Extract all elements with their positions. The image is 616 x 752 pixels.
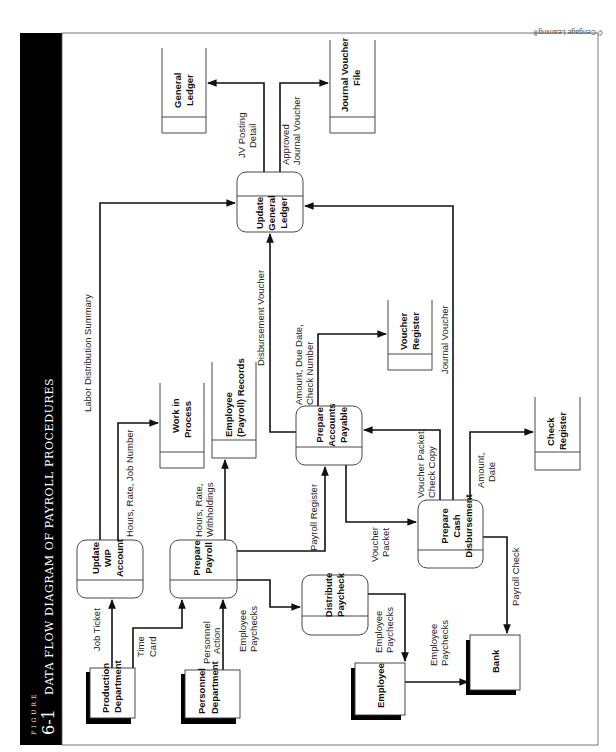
label-journal-voucher: Journal Voucher — [439, 305, 450, 374]
label-payroll-register: Payroll Register — [308, 484, 319, 551]
flow-voucher-packet — [346, 465, 416, 522]
svg-text:Check: Check — [545, 417, 556, 446]
svg-text:Check Copy: Check Copy — [426, 446, 437, 498]
label-employee-paychecks-3: Employee Paychecks — [428, 620, 450, 666]
svg-text:Disbursement: Disbursement — [463, 493, 474, 557]
svg-text:Paycheck: Paycheck — [335, 572, 346, 617]
svg-text:Time: Time — [135, 636, 146, 657]
svg-text:Check Number: Check Number — [304, 342, 315, 405]
svg-text:Labor Distribution Summary: Labor Distribution Summary — [82, 294, 93, 412]
label-jv-posting: JV Posting Detail — [236, 113, 258, 158]
copyright-credit: © Cengage Learning® — [532, 28, 603, 36]
svg-text:General: General — [266, 195, 277, 230]
svg-text:Department: Department — [112, 659, 123, 713]
svg-text:Payable: Payable — [338, 407, 349, 443]
svg-text:Detail: Detail — [247, 124, 258, 148]
svg-text:Hours, Rate, Job Number: Hours, Rate, Job Number — [124, 429, 135, 537]
svg-text:Register: Register — [557, 412, 568, 450]
payroll-data-flow-diagram: © Cengage Learning® FIGURE 6-1 DATA FLOW… — [0, 0, 616, 752]
store-employee-payroll-records[interactable]: Employee (Payroll) Records — [212, 358, 256, 458]
svg-text:Paychecks: Paychecks — [384, 607, 395, 653]
svg-text:Disbursement Voucher: Disbursement Voucher — [255, 270, 266, 366]
store-general-ledger[interactable]: General Ledger — [162, 48, 206, 133]
figure-title: DATA FLOW DIAGRAM OF PAYROLL PROCEDURES — [43, 378, 56, 695]
svg-text:File: File — [351, 70, 362, 86]
svg-text:Prepare: Prepare — [439, 508, 450, 543]
process-update-wip-account[interactable]: Update WIP Account — [77, 538, 143, 598]
process-update-general-ledger[interactable]: Update General Ledger — [237, 172, 303, 232]
label-approved-jv: Approved Journal Voucher — [280, 96, 302, 165]
svg-text:Payroll Register: Payroll Register — [308, 484, 319, 551]
label-job-ticket: Job Ticket — [91, 608, 102, 651]
store-check-register[interactable]: Check Register — [535, 397, 580, 470]
svg-text:Production: Production — [100, 663, 111, 713]
svg-text:Cash: Cash — [451, 514, 462, 537]
svg-text:Account: Account — [114, 538, 125, 577]
svg-text:Job Ticket: Job Ticket — [91, 608, 102, 651]
svg-text:Card: Card — [147, 636, 158, 657]
label-hours-rate-job: Hours, Rate, Job Number — [124, 429, 135, 537]
label-amount-date: Amount, Date — [475, 453, 497, 488]
svg-text:Withholdings: Withholdings — [204, 482, 215, 537]
label-labor-distribution: Labor Distribution Summary — [82, 294, 93, 412]
flow-amount-due-check — [318, 334, 386, 406]
svg-text:Date: Date — [486, 462, 497, 482]
entity-production-department[interactable]: Production Department — [86, 659, 135, 724]
svg-text:WIP: WIP — [102, 548, 113, 567]
entity-employee[interactable]: Employee — [351, 663, 405, 720]
svg-text:Amount,: Amount, — [475, 453, 486, 488]
process-prepare-cash-disbursement[interactable]: Prepare Cash Disbursement — [418, 493, 483, 568]
svg-text:Approved: Approved — [280, 124, 291, 165]
svg-text:Department: Department — [209, 660, 220, 714]
process-prepare-payroll[interactable]: Prepare Payroll — [170, 540, 237, 598]
label-voucher-packet: Voucher Packet — [369, 527, 391, 562]
store-journal-voucher-file[interactable]: Journal Voucher File — [330, 37, 375, 133]
svg-text:Personnel: Personnel — [196, 668, 207, 714]
svg-text:Prepare: Prepare — [314, 407, 325, 442]
label-employee-paychecks-2: Employee Paychecks — [373, 607, 395, 653]
label-personnel-action: Personnel Action — [201, 621, 222, 664]
svg-text:Work in: Work in — [170, 398, 181, 433]
label-disbursement-voucher: Disbursement Voucher — [255, 270, 266, 366]
process-prepare-accounts-payable[interactable]: Prepare Accounts Payable — [296, 403, 362, 465]
svg-text:Accounts: Accounts — [326, 403, 337, 446]
svg-text:Journal Voucher: Journal Voucher — [291, 96, 302, 165]
svg-text:Payroll Check: Payroll Check — [510, 547, 521, 606]
svg-text:Distribute: Distribute — [323, 573, 334, 617]
svg-text:Employee: Employee — [237, 610, 248, 652]
svg-text:Action: Action — [211, 628, 222, 654]
svg-text:Paychecks: Paychecks — [439, 620, 450, 666]
figure-number: 6-1 — [39, 709, 58, 735]
svg-text:(Payroll) Records: (Payroll) Records — [235, 358, 246, 437]
flow-payroll-check — [483, 537, 507, 633]
svg-text:Process: Process — [182, 401, 193, 438]
svg-text:General: General — [172, 73, 183, 108]
process-distribute-paycheck[interactable]: Distribute Paycheck — [302, 572, 368, 635]
label-employee-paychecks-1: Employee Paychecks — [237, 606, 259, 652]
svg-text:Employee: Employee — [373, 611, 384, 653]
figure-label: FIGURE — [30, 692, 37, 735]
label-amount-due-check: Amount, Due Date, Check Number — [293, 324, 315, 405]
entity-bank[interactable]: Bank — [466, 635, 520, 695]
svg-text:Ledger: Ledger — [278, 197, 289, 229]
svg-text:Ledger: Ledger — [184, 74, 195, 106]
svg-text:Employee: Employee — [375, 663, 386, 708]
svg-text:Update: Update — [254, 197, 265, 229]
store-voucher-register[interactable]: Voucher Register — [388, 300, 432, 370]
svg-text:Voucher: Voucher — [369, 527, 380, 562]
label-time-card: Time Card — [135, 636, 158, 657]
svg-text:Bank: Bank — [490, 649, 501, 673]
svg-text:Voucher: Voucher — [398, 312, 409, 350]
svg-text:Employee: Employee — [428, 624, 439, 666]
svg-text:Packet: Packet — [380, 528, 391, 557]
entity-personnel-department[interactable]: Personnel Department — [181, 660, 240, 724]
svg-text:JV Posting: JV Posting — [236, 113, 247, 158]
store-work-in-process[interactable]: Work in Process — [160, 383, 204, 468]
label-payroll-check: Payroll Check — [510, 547, 521, 606]
svg-text:Payroll: Payroll — [203, 542, 214, 574]
label-hours-rate-withholdings: Hours, Rate, Withholdings — [193, 482, 215, 537]
svg-text:Register: Register — [410, 312, 421, 350]
svg-text:Paychecks: Paychecks — [248, 606, 259, 652]
svg-text:Prepare: Prepare — [191, 540, 202, 575]
svg-text:Voucher Packet,: Voucher Packet, — [415, 429, 426, 498]
